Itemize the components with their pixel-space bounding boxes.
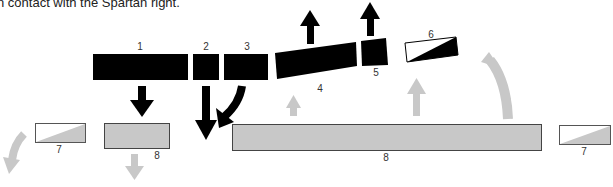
unit-block-3 (224, 54, 268, 80)
unit-block-5 (361, 38, 388, 66)
unit-block-2 (193, 54, 219, 80)
unit-block-1 (93, 54, 188, 80)
arrow-up-unit-5-icon (360, 2, 380, 36)
arrow-down-unit-1-icon (130, 86, 154, 117)
grey-arrow-down-unit-8-icon (125, 154, 144, 180)
grey-arrow-curve-left-icon (3, 134, 24, 174)
arrow-up-unit-4-icon (300, 10, 320, 44)
unit-label-8-main: 8 (383, 152, 389, 163)
unit-label-5: 5 (373, 67, 379, 78)
unit-block-8-main (233, 125, 542, 151)
unit-label-7-right: 7 (581, 146, 587, 157)
unit-label-4: 4 (317, 83, 323, 94)
unit-label-2: 2 (203, 41, 209, 52)
grey-arrow-up-mid-icon (407, 78, 426, 116)
unit-label-8-left: 8 (154, 150, 160, 161)
unit-block-7-left (36, 124, 86, 143)
grey-arrow-curve-right-icon (481, 52, 508, 119)
arrow-down-unit-2-icon (195, 86, 217, 140)
unit-block-8-left (105, 124, 170, 149)
unit-block-6 (405, 37, 458, 62)
grey-arrow-up-left-icon (286, 95, 301, 116)
unit-label-6: 6 (428, 29, 434, 40)
battle-diagram: 1 2 3 4 5 6 (0, 0, 613, 187)
unit-block-4 (275, 42, 357, 79)
unit-label-7-left: 7 (56, 144, 62, 155)
unit-label-3: 3 (244, 41, 250, 52)
unit-block-7-right (560, 126, 611, 145)
unit-label-1: 1 (137, 41, 143, 52)
arrow-curve-unit-3-icon (216, 86, 242, 128)
